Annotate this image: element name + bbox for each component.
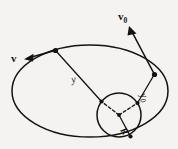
velocity-vector-v-arrowhead (24, 54, 34, 62)
radius-dashed-upper-left (102, 102, 120, 116)
label-velocity-v0: v0 (118, 10, 128, 25)
surface-dot-lower (128, 134, 132, 138)
orbital-diagram: v v0 y y0 R (0, 0, 178, 149)
diagram-canvas: v v0 y y0 R (0, 0, 178, 149)
velocity-vector-v0-shaft (131, 30, 155, 75)
label-distance-y: y (69, 73, 77, 85)
distance-line-y (56, 51, 102, 102)
surface-dot-upper-left (99, 99, 103, 103)
body-center-dot (117, 113, 121, 117)
label-velocity-v0-subscript: 0 (124, 16, 128, 25)
velocity-vector-v0-arrowhead (128, 26, 137, 36)
label-velocity-v: v (11, 52, 17, 64)
radius-dashed-upper-right (119, 103, 138, 115)
